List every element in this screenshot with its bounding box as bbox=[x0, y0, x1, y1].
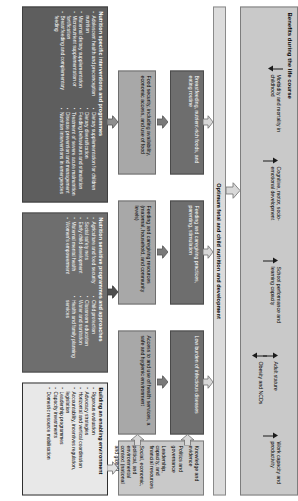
context-line: Politics and governance bbox=[171, 445, 183, 490]
list-item: Breastfeeding and complementary feeding bbox=[53, 11, 65, 101]
arrow-up-to-benefits bbox=[226, 182, 240, 198]
outcome-label: Food security, including availability, e… bbox=[140, 75, 152, 169]
list-item: Water and sanitation bbox=[77, 296, 83, 368]
list-item: Treatment of severe acute malnutrition bbox=[70, 108, 76, 198]
list-item: Health and family planning services bbox=[65, 296, 77, 368]
nutrition-sensitive-title: Nutrition sensitive programmes and appro… bbox=[98, 217, 104, 367]
arrow-up-resource-1 bbox=[157, 115, 168, 128]
benefit-label: Morbidity and mortality in childhood bbox=[270, 74, 282, 135]
nutrition-sensitive-list: Agriculture and food security Social saf… bbox=[64, 217, 96, 367]
arrow-left-context-upper bbox=[181, 434, 194, 445]
list-item: Maternal mental health bbox=[70, 217, 76, 289]
outcome-label: Low burden of infectious diseases bbox=[194, 335, 200, 429]
list-item: Agriculture and food security bbox=[90, 217, 96, 289]
outcome-box-low-burden-disease: Low burden of infectious diseases bbox=[170, 330, 204, 434]
context-line: Social, economic, political, and environ… bbox=[114, 445, 145, 490]
list-item: Leadership programmes bbox=[58, 387, 64, 490]
benefit-label: Work capacity and productivity bbox=[270, 441, 282, 494]
list-item: Dietary diversification bbox=[83, 108, 89, 198]
nutrition-specific-title: Nutrition specific interventions and pro… bbox=[98, 11, 104, 197]
outcome-box-food-security: Food security, including availability, e… bbox=[118, 70, 156, 174]
arrow-up-enabling-environment bbox=[107, 461, 118, 474]
list-item: Nutrition interventions in emergencies bbox=[58, 108, 64, 198]
list-item: Women's empowerment bbox=[64, 217, 70, 289]
list-item: Rigorous evaluation bbox=[90, 387, 96, 490]
benefit-label: Cognitive, motor, socio-emotional develo… bbox=[270, 166, 282, 237]
list-item: Disease prevention and management bbox=[64, 108, 70, 198]
arrow-up-nutrition-specific bbox=[107, 115, 118, 128]
arrow-up-resource-2 bbox=[157, 245, 168, 258]
knowledge-evidence-box: Knowledge and evidence Politics and gove… bbox=[118, 440, 204, 495]
nutrition-specific-list: Adolescent health and preconception nutr… bbox=[53, 11, 96, 197]
context-line: Knowledge and evidence bbox=[188, 445, 200, 490]
benefit-item: Work capacity and productivity bbox=[270, 432, 278, 494]
arrow-left-context-lower bbox=[131, 434, 144, 445]
list-item: Feeding behaviours and stimulation bbox=[77, 108, 83, 198]
list-item: Maternal dietary supplementation bbox=[77, 11, 83, 101]
outcome-bar-label: Optimum fetal and child nutrition and de… bbox=[217, 183, 223, 319]
list-item: Advocacy strategies bbox=[83, 387, 89, 490]
list-item: Early child development bbox=[77, 217, 83, 289]
list-item: Child protection bbox=[90, 296, 96, 368]
benefits-panel-title: Benefits during the life course bbox=[287, 12, 288, 98]
enabling-environment-box: Building an enabling environment Rigorou… bbox=[22, 382, 108, 495]
list-item: Accountability, incentives regulation, l… bbox=[65, 387, 77, 490]
list-item: Horizontal and vertical coordination bbox=[77, 387, 83, 490]
outcome-label: Access to and use of health services, a … bbox=[140, 335, 152, 429]
outcome-box-breastfeeding: Breastfeeding, nutrient-rich foods, and … bbox=[170, 70, 204, 174]
diagram-canvas: Benefits during the life course Morbidit… bbox=[16, 0, 288, 501]
benefit-item: Adult stature bbox=[273, 352, 278, 412]
list-item: Capacity investments bbox=[52, 387, 58, 490]
list-item: Classroom education bbox=[83, 296, 89, 368]
benefit-item: School performance and learning capacity bbox=[270, 257, 278, 335]
list-item: Adolescent health and preconception nutr… bbox=[84, 11, 96, 101]
arrow-up-outcome-1 bbox=[203, 115, 213, 128]
list-item: Social safety nets bbox=[83, 217, 89, 289]
benefits-panel: Benefits during the life course Morbidit… bbox=[240, 6, 288, 495]
outcome-box-feeding-caregiving-practices: Feeding and caregiving practices, parent… bbox=[170, 200, 204, 304]
outcome-label: Breastfeeding, nutrient-rich foods, and … bbox=[188, 75, 200, 169]
benefit-label: Adult stature bbox=[273, 361, 279, 412]
list-item: Micronutrient supplementation or fortifi… bbox=[65, 11, 77, 101]
arrow-up-resource-3 bbox=[157, 375, 168, 388]
benefit-item: Morbidity and mortality in childhood bbox=[270, 65, 273, 135]
outcome-label: Feeding and caregiving resources (matern… bbox=[133, 205, 152, 299]
nutrition-sensitive-box: Nutrition sensitive programmes and appro… bbox=[22, 212, 108, 372]
benefit-label: School performance and learning capacity bbox=[270, 266, 282, 335]
benefit-label: Obesity and NCDs bbox=[258, 361, 264, 412]
outcome-box-feeding-caregiving-resources: Feeding and caregiving resources (matern… bbox=[118, 200, 156, 304]
arrow-up-nutrition-sensitive bbox=[107, 285, 118, 298]
arrow-up-outcome-2 bbox=[203, 245, 213, 258]
list-item: Domestic resource mobilisation bbox=[45, 387, 51, 490]
outcome-label: Feeding and caregiving practices, parent… bbox=[188, 205, 200, 299]
outcome-box-health-services: Access to and use of health services, a … bbox=[118, 330, 156, 434]
enabling-environment-list: Rigorous evaluation Advocacy strategies … bbox=[45, 387, 95, 490]
context-line: Leadership, capacity, and financial reso… bbox=[149, 445, 168, 490]
nutrition-specific-box: Nutrition specific interventions and pro… bbox=[22, 6, 108, 202]
arrow-up-outcome-3 bbox=[203, 375, 213, 388]
benefit-item: Cognitive, motor, socio-emotional develo… bbox=[270, 157, 278, 237]
outcome-bar: Optimum fetal and child nutrition and de… bbox=[213, 6, 226, 495]
list-item: Dietary supplementation for children bbox=[90, 108, 96, 198]
enabling-environment-title: Building an enabling environment bbox=[98, 387, 104, 490]
